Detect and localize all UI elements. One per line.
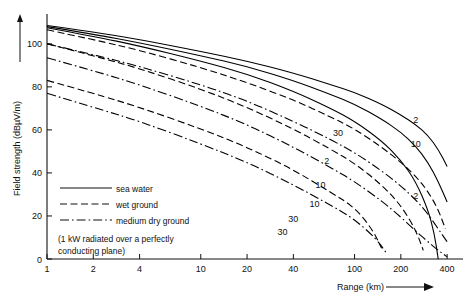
curve-wet-ground-2-MHz <box>47 30 445 229</box>
x-tick-label: 4 <box>137 264 142 274</box>
field-strength-chart: 124102040100200400020406080100Field stre… <box>0 0 472 302</box>
y-tick-label: 0 <box>37 255 42 265</box>
x-tick-label: 2 <box>91 264 96 274</box>
annotation-line-1: (1 kW radiated over a perfectly <box>58 234 174 244</box>
curve-sea-water-2-MHz <box>47 26 447 167</box>
curve-label: 30 <box>277 227 287 237</box>
x-tick-label: 10 <box>196 264 206 274</box>
y-axis-label: Field strength (dBµV/m) <box>12 101 22 196</box>
y-tick-label: 60 <box>32 125 42 135</box>
legend-label: sea water <box>116 184 153 194</box>
x-tick-label: 200 <box>393 264 408 274</box>
curve-medium-dry-ground-30-MHz <box>47 93 386 252</box>
curve-label: 30 <box>288 214 298 224</box>
y-axis-arrow-head <box>17 14 23 22</box>
curve-label: 30 <box>333 128 343 138</box>
x-axis-label: Range (km) <box>337 282 384 292</box>
curve-sea-water-30-MHz <box>47 28 438 259</box>
curve-label: 10 <box>310 199 320 209</box>
chart-svg: 124102040100200400020406080100Field stre… <box>0 0 472 302</box>
curve-wet-ground-10-MHz <box>47 44 423 251</box>
x-tick-label: 1 <box>44 264 49 274</box>
y-tick-label: 80 <box>32 82 42 92</box>
x-tick-label: 20 <box>242 264 252 274</box>
x-tick-label: 100 <box>347 264 362 274</box>
curve-wet-ground-30-MHz <box>47 80 382 248</box>
curve-label: 2 <box>413 115 418 125</box>
curve-label: 2 <box>324 156 329 166</box>
x-tick-label: 400 <box>440 264 455 274</box>
annotation-line-2: conducting plane) <box>58 246 125 256</box>
y-tick-label: 20 <box>32 211 42 221</box>
curve-medium-dry-ground-2-MHz <box>47 44 447 242</box>
legend-label: wet ground <box>115 200 158 210</box>
y-tick-label: 40 <box>32 168 42 178</box>
y-tick-label: 100 <box>27 39 42 49</box>
curve-medium-dry-ground-10-MHz <box>47 58 447 257</box>
x-axis-arrow-head <box>424 283 434 291</box>
legend-label: medium dry ground <box>116 216 190 226</box>
curve-label: 10 <box>411 139 421 149</box>
curve-label: 2 <box>413 191 418 201</box>
x-tick-label: 40 <box>288 264 298 274</box>
